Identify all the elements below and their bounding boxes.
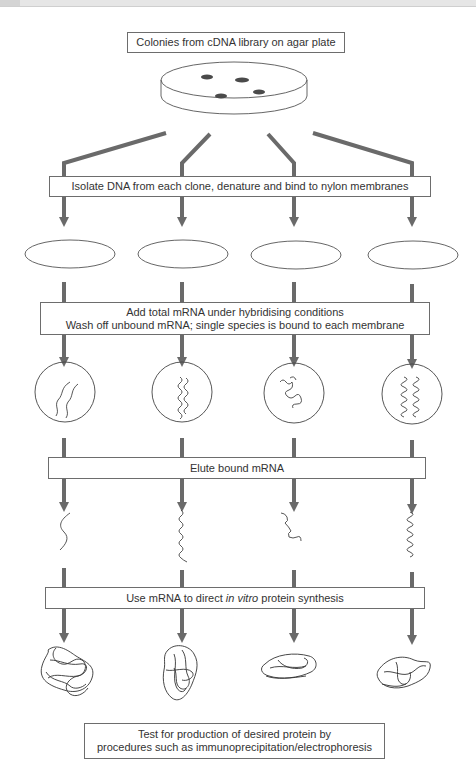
step-start-label: Colonies from cDNA library on agar plate [136, 36, 335, 49]
synthesis-italic: in vitro [226, 592, 258, 604]
membrane-icon [138, 240, 228, 268]
membrane-bound-mrna-icon [382, 364, 442, 424]
step-test-line1: Test for production of desired protein b… [138, 728, 331, 741]
protein-icon [377, 657, 430, 688]
protein-icon [163, 646, 197, 700]
membrane-bound-mrna-icon [35, 362, 95, 422]
colony [215, 93, 227, 98]
step-start-box: Colonies from cDNA library on agar plate [127, 32, 345, 53]
membrane-icon [368, 241, 458, 269]
synthesis-prefix: Use mRNA to direct [126, 592, 226, 604]
synthesis-suffix: protein synthesis [258, 592, 344, 604]
membrane-bound-mrna-icon [264, 363, 324, 423]
colony [201, 74, 213, 79]
mrna-strand-icon [60, 513, 70, 550]
protein-icon [41, 647, 93, 696]
step-elute-box: Elute bound mRNA [48, 457, 426, 479]
step-isolate-label: Isolate DNA from each clone, denature an… [72, 180, 409, 193]
mrna-strand-icon [281, 513, 301, 541]
membrane-icon [25, 240, 115, 268]
membrane-icon [251, 241, 341, 269]
mrna-strand-icon [407, 512, 413, 557]
nylon-membranes [25, 240, 458, 269]
protein-icon [262, 654, 317, 678]
diagram-graphics [0, 0, 476, 773]
step-hybridise-box: Add total mRNA under hybridising conditi… [40, 302, 430, 335]
step-synthesis-box: Use mRNA to direct in vitro protein synt… [45, 587, 425, 609]
step-elute-label: Elute bound mRNA [190, 462, 284, 475]
step-test-line2: procedures such as immunoprecipitation/e… [97, 741, 372, 754]
step-hybridise-line1: Add total mRNA under hybridising conditi… [126, 306, 344, 319]
agar-plate-icon [161, 62, 307, 114]
colony [253, 89, 265, 94]
step-hybridise-line2: Wash off unbound mRNA; single species is… [66, 319, 405, 332]
mrna-strand-icon [179, 510, 187, 562]
colony [235, 77, 249, 82]
step-test-box: Test for production of desired protein b… [84, 723, 385, 759]
step-isolate-box: Isolate DNA from each clone, denature an… [49, 176, 431, 197]
step-synthesis-label: Use mRNA to direct in vitro protein synt… [126, 592, 344, 605]
